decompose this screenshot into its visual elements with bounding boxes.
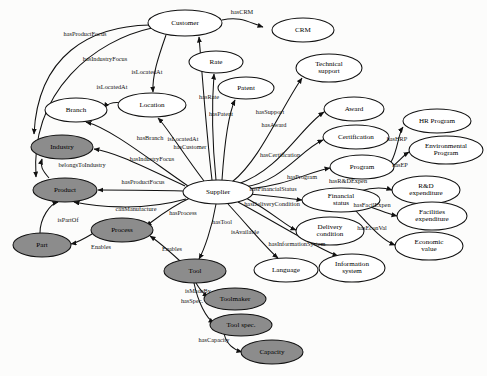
node-label: Certification: [338, 133, 374, 141]
edge-label: hasFacilExpen: [353, 201, 391, 208]
edge-label: Enables: [162, 245, 182, 252]
graph-node-toolmaker[interactable]: Toolmaker: [204, 288, 266, 310]
edge-label: hasTool: [212, 218, 232, 225]
graph-node-process[interactable]: Process: [91, 218, 153, 242]
graph-node-branch[interactable]: Branch: [45, 98, 107, 122]
node-label: system: [342, 267, 362, 275]
edge-label: Enables: [91, 243, 111, 250]
node-label: Language: [272, 266, 300, 274]
edge-label: hasIndustryFocus: [130, 155, 175, 162]
graph-node-capacity[interactable]: Capacity: [241, 340, 303, 364]
edge-label: hasBranch: [137, 134, 164, 141]
edge-label: hasR&DExpen: [329, 177, 368, 184]
ontology-diagram: CustomerCRMRateTechnicalsupportPatentLoc…: [0, 0, 487, 376]
graph-edge: [86, 122, 188, 186]
graph-node-rate[interactable]: Rate: [189, 51, 243, 73]
graph-node-certification[interactable]: Certification: [323, 125, 389, 149]
node-label: expenditure: [415, 215, 448, 223]
graph-node-tool[interactable]: Tool: [164, 259, 226, 283]
graph-node-part[interactable]: Part: [13, 233, 71, 257]
edge-label: hasFinancialStatus: [249, 185, 297, 192]
edge-label: hasAward: [262, 121, 288, 128]
edge-label: hasProductFocus: [121, 178, 165, 185]
node-label: Award: [345, 105, 364, 113]
node-label: status: [333, 199, 349, 207]
edge-label: hasPatent: [209, 110, 233, 117]
graph-node-supplier[interactable]: Supplier: [183, 180, 253, 204]
node-label: Part: [36, 241, 47, 249]
graph-node-economic-value[interactable]: Economicvalue: [395, 232, 463, 260]
graph-edge: [213, 74, 216, 180]
graph-node-rd-expenditure[interactable]: R&Dexpenditure: [392, 176, 460, 204]
edge-label: isMadeBy: [185, 287, 212, 294]
node-label: expenditure: [409, 189, 442, 197]
node-label: Tool spec.: [226, 321, 255, 329]
graph-edge: [249, 194, 302, 200]
edge-label: canManufacture: [116, 205, 157, 212]
edge-label: hasSpec.: [181, 297, 204, 304]
edge-label: hasSupport: [256, 108, 285, 115]
graph-edge: [153, 35, 166, 92]
node-label: Product: [54, 186, 76, 194]
node-label: Program: [434, 149, 459, 157]
edge-label: hasProcess: [169, 209, 197, 216]
node-label: support: [318, 67, 339, 75]
edge-label: isLocatedAt: [168, 135, 199, 142]
edge-label: hasCapacity: [199, 336, 231, 343]
graph-edge: [41, 159, 49, 178]
graph-edge: [199, 204, 216, 259]
node-label: Process: [111, 226, 133, 234]
node-label: CRM: [295, 26, 311, 34]
node-label: Program: [350, 163, 375, 171]
node-label: Rate: [210, 58, 223, 66]
node-layer: CustomerCRMRateTechnicalsupportPatentLoc…: [13, 10, 483, 364]
graph-node-facilities-expenditure[interactable]: Facilitiesexpenditure: [397, 202, 467, 230]
graph-node-program[interactable]: Program: [330, 155, 394, 179]
graph-node-hr-program[interactable]: HR Program: [403, 109, 471, 133]
node-label: Industry: [50, 143, 74, 151]
edge-label: hasProductFocus: [63, 30, 107, 37]
graph-node-tool-spec[interactable]: Tool spec.: [210, 314, 272, 336]
edge-label: hasHRP: [387, 135, 408, 142]
edge-label: isLocatedAt: [132, 68, 163, 75]
node-label: Supplier: [206, 188, 231, 196]
node-label: Branch: [66, 106, 87, 114]
graph-edge: [391, 127, 403, 162]
graph-edge: [71, 234, 92, 244]
graph-node-language[interactable]: Language: [254, 258, 318, 282]
edge-label: hasCertification: [260, 151, 301, 158]
edge-label: isPartOf: [58, 216, 80, 223]
edge-label: hasEP: [392, 161, 408, 168]
graph-edge: [222, 19, 263, 27]
edge-label: hasRate: [199, 93, 219, 100]
edge-label: hasIndustryFocus: [83, 55, 128, 62]
node-label: Patent: [237, 84, 255, 92]
node-label: Capacity: [259, 348, 285, 356]
edge-label: isLocatedAt: [97, 83, 128, 90]
node-label: Customer: [171, 19, 199, 27]
graph-node-crm[interactable]: CRM: [272, 18, 334, 42]
node-label: Location: [139, 101, 165, 109]
edge-label: hasProgram: [287, 173, 317, 180]
graph-edge: [40, 202, 58, 233]
edge-label: hasEconVal: [357, 224, 387, 231]
graph-node-environmental-program[interactable]: EnvironmentalProgram: [409, 136, 483, 164]
edge-label: hasCRM: [231, 8, 254, 15]
node-label: value: [421, 245, 436, 253]
node-label: condition: [317, 230, 344, 238]
graph-canvas: CustomerCRMRateTechnicalsupportPatentLoc…: [0, 0, 487, 376]
node-label: Toolmaker: [220, 295, 251, 303]
graph-edge: [98, 190, 183, 191]
node-label: HR Program: [419, 117, 456, 125]
graph-node-patent[interactable]: Patent: [218, 77, 274, 99]
edge-label: hasInformationSystem: [268, 240, 325, 247]
edge-label: hasCustomer: [174, 143, 208, 150]
edge-label: hasDeliveryCondition: [244, 200, 300, 207]
graph-node-information-system[interactable]: Informationsystem: [319, 254, 385, 282]
graph-node-industry[interactable]: Industry: [31, 135, 93, 159]
graph-node-product[interactable]: Product: [33, 178, 97, 202]
graph-node-location[interactable]: Location: [118, 93, 186, 117]
graph-node-award[interactable]: Award: [324, 97, 384, 121]
graph-node-customer[interactable]: Customer: [148, 10, 222, 36]
graph-node-technical-support[interactable]: Technicalsupport: [296, 54, 362, 82]
